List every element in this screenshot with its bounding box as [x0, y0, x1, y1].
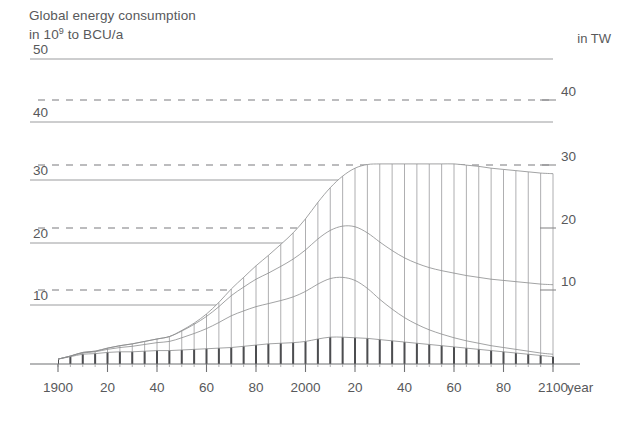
y-axis-label-right-40: 40 [561, 84, 576, 99]
x-axis-label-2000: 2000 [282, 380, 330, 395]
x-axis-title: year [567, 380, 593, 395]
y-axis-label-right-30: 30 [561, 149, 576, 164]
x-axis-label-60: 60 [430, 380, 478, 395]
x-axis-label-40: 40 [133, 380, 181, 395]
y-axis-label-left-50: 50 [33, 42, 48, 57]
x-axis-label-20: 20 [331, 380, 379, 395]
x-axis-label-80: 80 [480, 380, 528, 395]
y-axis-label-left-10: 10 [33, 288, 48, 303]
x-axis-label-40: 40 [381, 380, 429, 395]
y-axis-label-left-40: 40 [33, 105, 48, 120]
vertical-hatch-lines [58, 164, 553, 364]
x-axis-label-1900: 1900 [34, 380, 82, 395]
x-axis-label-60: 60 [183, 380, 231, 395]
y-axis-label-right-10: 10 [561, 274, 576, 289]
y-axis-label-left-30: 30 [33, 163, 48, 178]
chart-plot-area [0, 0, 639, 424]
y-axis-label-right-20: 20 [561, 212, 576, 227]
chart-root: Global energy consumption in 109 to BCU/… [0, 0, 639, 424]
x-axis-label-80: 80 [232, 380, 280, 395]
x-axis-label-20: 20 [84, 380, 132, 395]
y-axis-label-left-20: 20 [33, 226, 48, 241]
